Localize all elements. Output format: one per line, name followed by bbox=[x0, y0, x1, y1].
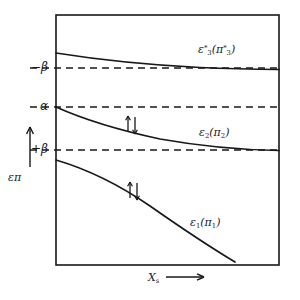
mo-correlation-diagram: −β α +β επ Xs ε*3(π*3) ε2(π2) ε1(π1) bbox=[0, 0, 300, 300]
curve-label-epsilon-3-star: ε*3(π*3) bbox=[198, 44, 235, 57]
y-tick-label-plus-beta: +β bbox=[18, 143, 48, 155]
curve-label-epsilon-2-paren-close: ) bbox=[225, 126, 229, 139]
curve-label-epsilon-2-pi: π bbox=[214, 126, 221, 139]
curve-label-epsilon-1-paren-close: ) bbox=[216, 216, 220, 229]
curve-label-epsilon-1-pi: π bbox=[205, 216, 212, 229]
x-axis-title: Xs bbox=[148, 272, 159, 285]
curve-label-epsilon-1: ε1(π1) bbox=[190, 217, 220, 230]
curve-label-epsilon-2: ε2(π2) bbox=[199, 127, 229, 140]
y-tick-label-alpha: α bbox=[18, 100, 48, 112]
curve-epsilon-2 bbox=[56, 107, 279, 151]
electron-pair-epsilon-2 bbox=[126, 116, 138, 134]
curve-label-epsilon-3-star-paren-close: ) bbox=[231, 43, 235, 56]
y-axis-title: επ bbox=[8, 172, 21, 183]
electron-pair-epsilon-1 bbox=[128, 182, 140, 200]
x-axis-arrow-icon bbox=[166, 274, 204, 280]
x-axis-title-main: X bbox=[148, 271, 156, 284]
x-axis-title-sub: s bbox=[156, 277, 160, 285]
y-tick-label-minus-beta: −β bbox=[18, 61, 48, 73]
curve-epsilon-3-star bbox=[56, 53, 279, 70]
curve-epsilon-1 bbox=[56, 160, 235, 262]
